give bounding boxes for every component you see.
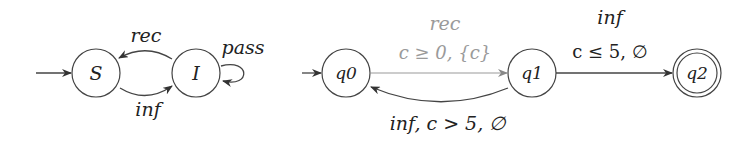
edge-q1-q0-label: inf, c > 5, ∅	[390, 112, 508, 134]
edge-q1-q2-guard: c ≤ 5, ∅	[572, 41, 648, 62]
edge-pass-loop	[221, 65, 244, 82]
left-automaton: S I rec inf pass	[36, 24, 265, 120]
edge-inf	[120, 86, 172, 96]
edge-q1-q2-action: inf	[597, 6, 625, 28]
right-automaton: q0 q1 q2 rec c ≥ 0, {c} inf, c > 5, ∅ in…	[302, 6, 721, 134]
state-s-label: S	[89, 62, 102, 84]
edge-pass-label: pass	[222, 36, 265, 58]
edge-q0-q1-guard: c ≥ 0, {c}	[399, 42, 492, 63]
edge-q0-q1-action: rec	[430, 12, 461, 34]
edge-q1-q0	[371, 87, 508, 102]
automata-diagram: S I rec inf pass q0 q1 q2 rec c ≥ 0, {c}…	[0, 0, 751, 149]
edge-inf-label: inf	[135, 98, 163, 120]
state-q1-label: q1	[521, 63, 543, 83]
state-q0-label: q0	[335, 63, 357, 83]
state-i-label: I	[191, 62, 200, 84]
edge-rec	[119, 51, 172, 59]
state-q2-label: q2	[686, 63, 708, 83]
edge-rec-label: rec	[131, 24, 162, 46]
